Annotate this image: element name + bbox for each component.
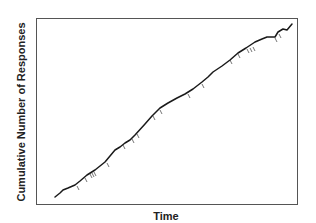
pip-mark — [77, 186, 79, 190]
plot-frame — [37, 19, 298, 205]
pip-mark — [90, 174, 92, 178]
x-axis-label: Time — [153, 210, 178, 222]
pip-mark — [92, 173, 94, 177]
pip-mark — [153, 116, 155, 120]
pip-mark — [275, 38, 277, 42]
pip-mark — [123, 145, 125, 149]
cumulative-response-line — [55, 24, 292, 197]
pip-mark — [188, 94, 190, 98]
y-axis-label: Cumulative Number of Responses — [15, 22, 27, 201]
pip-mark — [107, 163, 109, 167]
pip-mark — [247, 49, 249, 53]
pip-mark — [85, 178, 87, 182]
pip-mark — [279, 34, 281, 38]
reinforcement-pips — [77, 34, 281, 190]
plot-area — [0, 0, 316, 223]
pip-mark — [238, 54, 240, 58]
pip-mark — [94, 172, 96, 176]
cumulative-record-chart: Cumulative Number of Responses Time — [0, 0, 316, 223]
pip-mark — [160, 110, 162, 114]
pip-mark — [253, 47, 255, 51]
pip-mark — [202, 84, 204, 88]
pip-mark — [132, 139, 134, 143]
pip-mark — [250, 48, 252, 52]
pip-mark — [137, 134, 139, 138]
